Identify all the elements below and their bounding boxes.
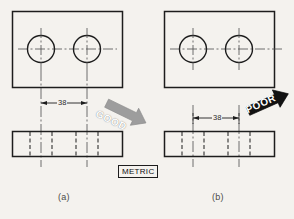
- right-front-view: [165, 132, 275, 157]
- technical-drawing-svg: [0, 0, 294, 219]
- right-top-view-outline: [165, 12, 275, 88]
- left-top-view-outline: [13, 12, 123, 88]
- right-dimension-value: 38: [212, 113, 222, 122]
- left-front-view: [13, 132, 123, 157]
- good-arrow: [102, 95, 150, 131]
- right-dimension-arrowhead-start: [193, 116, 199, 120]
- left-dimension-arrowhead-start: [41, 101, 47, 105]
- left-dimension-value: 38: [57, 98, 67, 107]
- left-dimension-arrowhead-end: [81, 101, 87, 105]
- right-top-view: [165, 12, 283, 88]
- metric-note-box: METRIC: [118, 165, 158, 178]
- left-front-view-outline: [13, 132, 123, 157]
- left-projection-lines: [41, 70, 87, 167]
- right-dimension-arrowhead-end: [233, 116, 239, 120]
- caption-b: (b): [212, 192, 224, 202]
- caption-a: (a): [58, 192, 70, 202]
- poor-arrow: [244, 85, 292, 120]
- left-top-view: [13, 12, 123, 88]
- figure-canvas: 38 38 GOOD POOR METRIC (a) (b): [0, 0, 294, 219]
- right-front-view-outline: [165, 132, 275, 157]
